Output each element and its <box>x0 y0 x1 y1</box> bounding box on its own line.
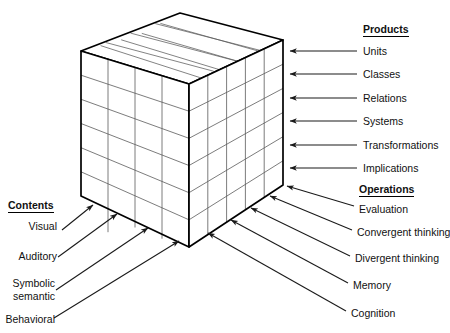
products-label-classes: Classes <box>363 68 400 80</box>
products-label-transformations: Transformations <box>363 139 438 151</box>
arrow-auditory <box>58 214 117 257</box>
operations-label-cognition: Cognition <box>351 307 395 319</box>
contents-heading: Contents <box>8 199 54 213</box>
arrow-visual <box>62 205 93 230</box>
products-label-relations: Relations <box>363 92 407 104</box>
operations-label-evaluation: Evaluation <box>359 203 408 215</box>
products-label-systems: Systems <box>363 115 403 127</box>
contents-label-symbolic: Symbolic <box>2 277 55 289</box>
arrow-behavioral <box>54 241 179 318</box>
cube-left-face <box>81 51 189 247</box>
arrow-evaluation <box>287 186 354 206</box>
contents-label-auditory: Auditory <box>4 250 57 262</box>
products-label-units: Units <box>363 45 387 57</box>
products-heading: Products <box>363 23 409 37</box>
contents-label-behavioral: Behavioral <box>0 313 55 325</box>
arrow-divergent-thinking <box>251 208 350 256</box>
contents-label-semantic: semantic <box>2 290 55 302</box>
operations-label-convergent-thinking: Convergent thinking <box>357 226 450 238</box>
products-arrows <box>290 51 357 168</box>
arrow-symbolic-semantic <box>56 228 148 290</box>
arrow-convergent-thinking <box>270 196 352 230</box>
operations-heading: Operations <box>359 183 414 197</box>
products-label-implications: Implications <box>363 162 418 174</box>
arrow-memory <box>231 220 348 283</box>
operations-label-memory: Memory <box>353 279 391 291</box>
operations-label-divergent-thinking: Divergent thinking <box>355 252 439 264</box>
contents-label-visual: Visual <box>8 220 57 232</box>
